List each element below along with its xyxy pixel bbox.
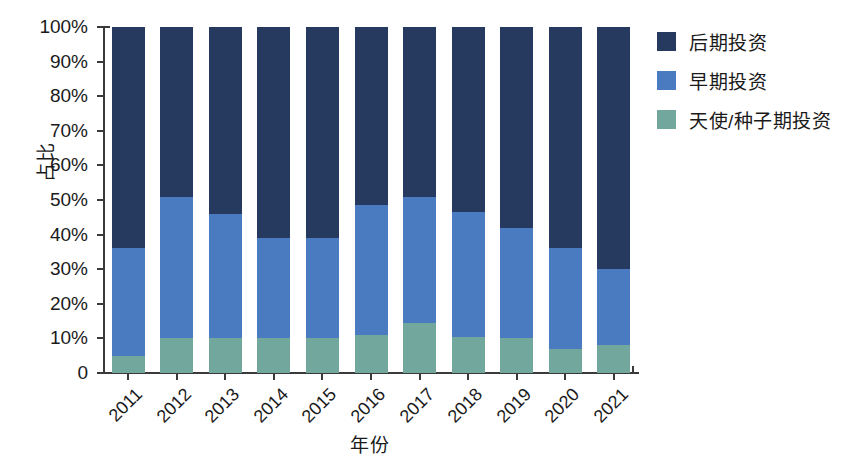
legend-label: 后期投资 — [689, 28, 767, 55]
bar-segment[interactable] — [306, 338, 339, 373]
bar-segment[interactable] — [112, 248, 145, 355]
x-axis-label-2018: 2018 — [435, 384, 487, 436]
y-axis-label: 100% — [26, 17, 88, 36]
chart-legend: 后期投资早期投资天使/种子期投资 — [657, 22, 842, 139]
bar-2018[interactable] — [452, 27, 485, 373]
bar-segment[interactable] — [403, 197, 436, 323]
y-axis-tick — [97, 130, 104, 132]
legend-label: 天使/种子期投资 — [689, 106, 831, 133]
legend-item[interactable]: 天使/种子期投资 — [657, 100, 842, 139]
legend-item[interactable]: 后期投资 — [657, 22, 842, 61]
bar-2015[interactable] — [306, 27, 339, 373]
x-axis-label-2014: 2014 — [241, 384, 293, 436]
bar-segment[interactable] — [549, 349, 582, 373]
y-axis-label: 70% — [26, 121, 88, 140]
bar-segment[interactable] — [355, 205, 388, 335]
bar-2013[interactable] — [209, 27, 242, 373]
bar-segment[interactable] — [452, 212, 485, 337]
x-axis-tick — [564, 373, 566, 380]
y-axis-tick — [97, 268, 104, 270]
bar-segment[interactable] — [500, 228, 533, 339]
legend-swatch-icon — [657, 32, 676, 51]
bar-2019[interactable] — [500, 27, 533, 373]
x-axis-title: 年份 — [290, 430, 450, 457]
bar-2017[interactable] — [403, 27, 436, 373]
bar-segment[interactable] — [257, 238, 290, 338]
y-axis-label: 60% — [26, 155, 88, 174]
legend-label: 早期投资 — [689, 67, 767, 94]
bar-segment[interactable] — [452, 337, 485, 373]
x-axis-tick — [224, 373, 226, 380]
bar-2016[interactable] — [355, 27, 388, 373]
bar-segment[interactable] — [160, 27, 193, 197]
bar-2011[interactable] — [112, 27, 145, 373]
x-axis-tick — [467, 373, 469, 380]
plot-area — [104, 27, 638, 373]
y-axis-label: 20% — [26, 294, 88, 313]
y-axis-tick — [97, 26, 104, 28]
bar-segment[interactable] — [209, 27, 242, 214]
bar-segment[interactable] — [209, 214, 242, 339]
bar-segment[interactable] — [355, 335, 388, 373]
y-axis-tick — [97, 199, 104, 201]
bar-2021[interactable] — [597, 27, 630, 373]
bar-segment[interactable] — [452, 27, 485, 212]
bar-segment[interactable] — [257, 27, 290, 238]
legend-item[interactable]: 早期投资 — [657, 61, 842, 100]
x-axis-tick — [321, 373, 323, 380]
bar-segment[interactable] — [209, 338, 242, 373]
y-axis-tick — [97, 164, 104, 166]
x-axis-tick — [419, 373, 421, 380]
bar-segment[interactable] — [160, 197, 193, 339]
bar-segment[interactable] — [500, 27, 533, 228]
y-axis-label: 0 — [26, 363, 88, 382]
x-axis-tick — [613, 373, 615, 380]
y-axis-tick — [97, 372, 104, 374]
y-axis-label: 10% — [26, 328, 88, 347]
bar-segment[interactable] — [403, 323, 436, 373]
y-axis-label: 30% — [26, 259, 88, 278]
x-axis-label-2021: 2021 — [581, 384, 633, 436]
x-axis-label-2020: 2020 — [532, 384, 584, 436]
legend-swatch-icon — [657, 110, 676, 129]
x-axis-label-2017: 2017 — [387, 384, 439, 436]
y-axis-tick — [97, 303, 104, 305]
x-axis-tick — [176, 373, 178, 380]
y-axis-label: 80% — [26, 86, 88, 105]
bar-segment[interactable] — [112, 356, 145, 373]
x-axis-tick — [370, 373, 372, 380]
bar-segment[interactable] — [160, 338, 193, 373]
y-axis-tick — [97, 61, 104, 63]
bar-segment[interactable] — [597, 27, 630, 269]
bar-2012[interactable] — [160, 27, 193, 373]
bar-segment[interactable] — [500, 338, 533, 373]
bar-segment[interactable] — [355, 27, 388, 205]
x-axis-tick — [127, 373, 129, 380]
bar-segment[interactable] — [403, 27, 436, 197]
legend-swatch-icon — [657, 71, 676, 90]
x-axis-label-2012: 2012 — [144, 384, 196, 436]
bar-segment[interactable] — [306, 238, 339, 338]
y-axis-label: 90% — [26, 52, 88, 71]
bar-segment[interactable] — [257, 338, 290, 373]
y-axis-label: 40% — [26, 225, 88, 244]
y-axis-label: 50% — [26, 190, 88, 209]
bar-segment[interactable] — [112, 27, 145, 248]
x-axis-label-2016: 2016 — [338, 384, 390, 436]
stacked-bar-chart: 占比 010%20%30%40%50%60%70%80%90%100% 2011… — [0, 0, 842, 461]
x-axis-label-2019: 2019 — [484, 384, 536, 436]
x-axis-label-2011: 2011 — [95, 384, 147, 436]
y-axis-tick — [97, 234, 104, 236]
bar-segment[interactable] — [306, 27, 339, 238]
x-axis-label-2015: 2015 — [290, 384, 342, 436]
bar-2020[interactable] — [549, 27, 582, 373]
x-axis-label-2013: 2013 — [193, 384, 245, 436]
y-axis-tick — [97, 337, 104, 339]
x-axis-tick — [516, 373, 518, 380]
bar-segment[interactable] — [549, 27, 582, 248]
x-axis-tick — [273, 373, 275, 380]
bar-segment[interactable] — [549, 248, 582, 348]
bar-2014[interactable] — [257, 27, 290, 373]
bar-segment[interactable] — [597, 269, 630, 345]
bar-segment[interactable] — [597, 345, 630, 373]
